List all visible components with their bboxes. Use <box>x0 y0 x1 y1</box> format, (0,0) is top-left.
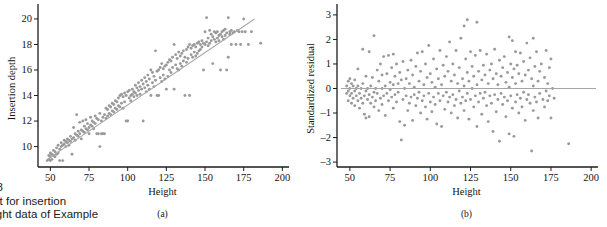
data-point <box>373 34 376 37</box>
data-point <box>443 75 446 78</box>
data-point <box>103 113 106 116</box>
data-point <box>235 43 238 46</box>
data-point <box>509 94 512 97</box>
data-point <box>432 96 435 99</box>
data-point <box>353 78 356 81</box>
data-point <box>371 76 374 79</box>
data-point <box>397 91 400 94</box>
data-point <box>377 109 380 112</box>
data-point <box>379 63 382 66</box>
data-point <box>543 76 546 79</box>
data-point <box>432 58 435 61</box>
data-point <box>205 16 208 19</box>
data-point <box>199 48 202 51</box>
data-point <box>363 94 366 97</box>
data-point <box>145 80 148 83</box>
y-tick-label: 18 <box>22 39 33 50</box>
data-point <box>204 43 207 46</box>
data-point <box>371 96 374 99</box>
data-point <box>427 44 430 47</box>
data-point <box>137 81 140 84</box>
data-point <box>216 30 219 33</box>
data-point <box>479 92 482 95</box>
data-point <box>477 70 480 73</box>
data-point <box>387 54 390 57</box>
data-point <box>450 112 453 115</box>
data-point <box>120 102 123 105</box>
data-point <box>430 81 433 84</box>
data-point <box>106 114 109 117</box>
data-point <box>537 80 540 83</box>
data-point <box>50 158 53 161</box>
data-point <box>501 103 504 106</box>
x-tick-label: 125 <box>463 172 479 183</box>
data-point <box>511 107 514 110</box>
data-point <box>131 93 134 96</box>
data-point <box>408 102 411 105</box>
data-point <box>160 62 163 65</box>
data-point <box>435 123 438 126</box>
data-point <box>439 99 442 102</box>
data-point <box>419 112 422 115</box>
data-point <box>71 153 74 156</box>
data-point <box>458 90 461 93</box>
data-point <box>456 116 459 119</box>
x-axis-title: Height <box>452 186 481 197</box>
data-point <box>382 94 385 97</box>
y-tick-label: 12 <box>22 115 33 126</box>
data-point <box>165 63 168 66</box>
data-point <box>216 37 219 40</box>
data-point <box>461 77 464 80</box>
data-point <box>194 46 197 49</box>
data-point <box>171 66 174 69</box>
y-axis-title: Standardized residual <box>305 43 316 134</box>
data-point <box>374 99 377 102</box>
data-point <box>207 44 210 47</box>
data-point <box>157 94 160 97</box>
data-point <box>208 42 211 45</box>
data-point <box>453 74 456 77</box>
data-point <box>533 96 536 99</box>
y-axis-title: Insertion depth <box>6 56 17 120</box>
data-point <box>213 38 216 41</box>
data-point <box>365 116 368 119</box>
data-point <box>426 76 429 79</box>
data-point <box>225 32 228 35</box>
data-point <box>459 102 462 105</box>
y-tick-label: –1 <box>320 107 332 118</box>
data-point <box>57 144 60 147</box>
data-point <box>350 92 353 95</box>
data-point <box>521 80 524 83</box>
x-tick-label: 150 <box>197 172 213 183</box>
data-point <box>521 105 524 108</box>
data-point <box>159 66 162 69</box>
data-point <box>366 98 369 101</box>
data-point <box>377 80 380 83</box>
data-point <box>416 97 419 100</box>
data-point <box>358 92 361 95</box>
data-point <box>548 94 551 97</box>
data-point <box>120 93 123 96</box>
data-point <box>72 126 75 129</box>
data-point <box>140 88 143 91</box>
data-point <box>403 124 406 127</box>
data-point <box>517 72 520 75</box>
data-point <box>538 70 541 73</box>
data-point <box>134 92 137 95</box>
data-point <box>146 84 149 87</box>
data-point <box>173 88 176 91</box>
data-point <box>140 79 143 82</box>
data-point <box>136 94 139 97</box>
data-point <box>484 91 487 94</box>
data-point <box>451 63 454 66</box>
data-point <box>434 103 437 106</box>
data-point <box>398 71 401 74</box>
data-point <box>546 82 549 85</box>
data-point <box>55 146 58 149</box>
data-point <box>210 39 213 42</box>
data-point <box>376 69 379 72</box>
x-tick-label: 100 <box>422 172 438 183</box>
data-point <box>369 102 372 105</box>
data-point <box>347 99 350 102</box>
data-point <box>115 100 118 103</box>
